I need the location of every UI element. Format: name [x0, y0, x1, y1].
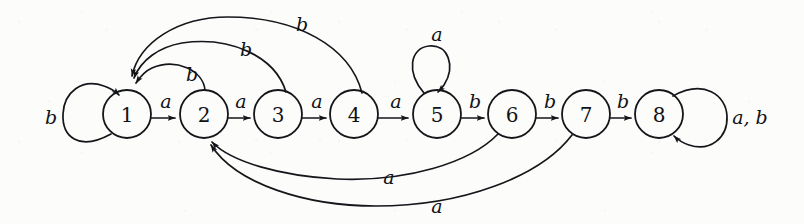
state-label-7: 7	[580, 103, 593, 127]
state-label-8: 8	[653, 103, 666, 127]
state-node-5[interactable]: 5	[413, 90, 461, 138]
state-node-4[interactable]: 4	[330, 90, 378, 138]
edge-label-4-to-5: a	[390, 90, 401, 112]
edge-label-3-to-1: b	[240, 38, 252, 60]
edge-label-6-to-7: b	[544, 90, 556, 112]
edge-label-2-to-3: a	[235, 90, 246, 112]
edge-8-to-8	[673, 89, 727, 147]
state-label-3: 3	[272, 103, 285, 127]
state-node-6[interactable]: 6	[488, 90, 536, 138]
state-diagram-canvas: 1 2 3 4 5 6 7	[0, 0, 804, 224]
state-node-8[interactable]: 8	[635, 90, 683, 138]
edge-label-5-to-6: b	[469, 90, 481, 112]
state-node-1[interactable]: 1	[103, 90, 151, 138]
edge-6-to-2	[212, 134, 498, 179]
state-label-4: 4	[348, 103, 361, 127]
state-label-1: 1	[121, 103, 134, 127]
edge-label-7-to-8: b	[617, 90, 629, 112]
edge-label-3-to-4: a	[311, 90, 322, 112]
edge-label-1-to-2: a	[160, 90, 171, 112]
state-label-2: 2	[198, 103, 211, 127]
edge-label-8-to-8: a, b	[732, 106, 768, 128]
edge-label-2-to-1: b	[186, 63, 198, 85]
state-node-7[interactable]: 7	[562, 90, 610, 138]
automaton-figure: 1 2 3 4 5 6 7	[0, 0, 804, 224]
state-node-3[interactable]: 3	[254, 90, 302, 138]
state-label-6: 6	[506, 103, 519, 127]
edge-label-6-to-2: a	[383, 166, 394, 188]
edge-label-1-to-1: b	[45, 106, 57, 128]
edge-label-7-to-2: a	[431, 195, 442, 217]
edge-1-to-1	[63, 84, 119, 142]
edge-label-4-to-1: b	[296, 13, 308, 35]
state-node-2[interactable]: 2	[180, 90, 228, 138]
edge-5-to-5	[412, 46, 449, 93]
state-label-5: 5	[431, 103, 444, 127]
edge-label-5-to-5: a	[431, 23, 442, 45]
